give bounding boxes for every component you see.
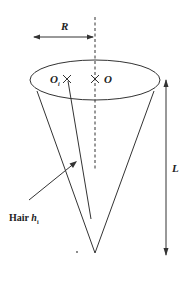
- hair-label: Hair hi: [9, 213, 39, 225]
- cone-diagram: [0, 0, 187, 281]
- length-label: L: [172, 163, 179, 174]
- center-oi-label: Oi: [50, 74, 60, 87]
- oi-letter: O: [50, 73, 58, 85]
- cone-left-side: [37, 91, 95, 253]
- cone-right-side: [95, 91, 154, 253]
- radius-arrowhead-left-icon: [33, 35, 40, 40]
- o-cross-icon: [91, 75, 99, 83]
- length-arrowhead-down-icon: [164, 248, 169, 256]
- oi-subscript: i: [58, 81, 60, 87]
- length-arrowhead-up-icon: [164, 79, 169, 87]
- radius-arrowhead-right-icon: [87, 35, 94, 40]
- hair-subscript: i: [37, 219, 39, 225]
- hair-line: [68, 81, 91, 219]
- oi-cross-icon: [63, 75, 71, 83]
- radius-label: R: [61, 21, 68, 32]
- apex-dot: [76, 251, 78, 253]
- center-o-label: O: [104, 74, 112, 85]
- hair-word: Hair: [9, 212, 31, 223]
